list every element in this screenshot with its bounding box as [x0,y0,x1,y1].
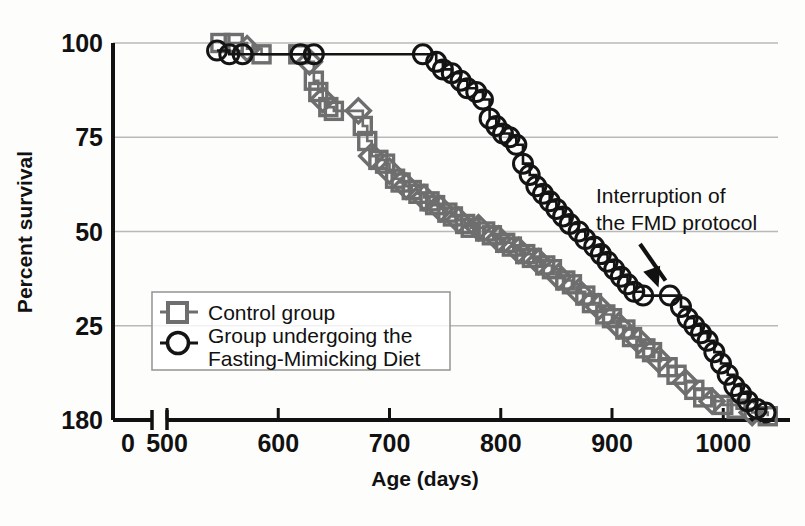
y-tick-label: 100 [61,29,103,57]
y-tick-labels: 180255075100 [61,29,103,434]
x-tick-label: 600 [257,429,299,457]
circle-marker-icon [168,333,189,354]
x-tick-label: 1000 [695,429,751,457]
annotation-arrow-icon [640,244,666,288]
chart-canvas: 180255075100 05006007008009001000 Age (d… [0,0,805,526]
y-axis-title: Percent survival [13,151,36,313]
x-tick-label: 900 [591,429,633,457]
data-point-marker [473,90,492,109]
x-tick-label: 800 [480,429,522,457]
annotation-text-line1: Interruption of [596,184,726,207]
y-tick-label: 50 [75,218,103,246]
y-tick-label: 25 [75,312,103,340]
data-point-marker [233,45,252,64]
x-axis-title: Age (days) [371,467,478,490]
square-marker-icon [168,303,187,322]
data-point-marker [507,135,526,154]
legend-label-fmd-line2: Fasting-Mimicking Diet [208,347,421,370]
data-point-marker [634,286,653,305]
survival-chart-figure: 180255075100 05006007008009001000 Age (d… [0,0,805,526]
arrow-head [643,266,660,288]
x-tick-label: 0 [121,429,135,457]
y-tick-label: 180 [61,406,103,434]
data-point-marker [304,45,323,64]
x-tick-label: 700 [369,429,411,457]
data-point-marker [325,102,342,119]
x-tick-labels: 05006007008009001000 [121,429,751,457]
legend-label-control: Control group [208,301,335,324]
y-tick-label: 75 [75,123,103,151]
annotation-text-line2: the FMD protocol [596,211,757,234]
chart-legend: Control group Group undergoing the Fasti… [152,292,450,370]
x-tick-label: 500 [146,429,188,457]
legend-label-fmd-line1: Group undergoing the [208,324,412,347]
data-point-marker [756,403,775,422]
legend-item-control[interactable]: Control group [160,301,335,324]
